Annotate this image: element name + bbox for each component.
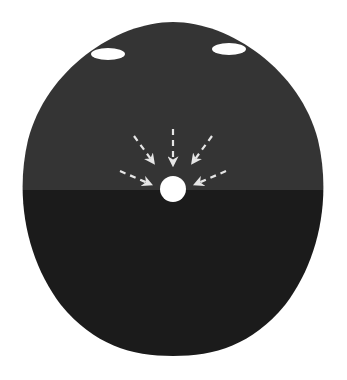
top-mark-left <box>91 48 125 60</box>
diagram-canvas <box>0 0 347 380</box>
top-mark-right <box>212 43 246 55</box>
upper-region <box>0 0 347 190</box>
central-sphere <box>160 176 186 202</box>
lower-region <box>0 190 347 380</box>
